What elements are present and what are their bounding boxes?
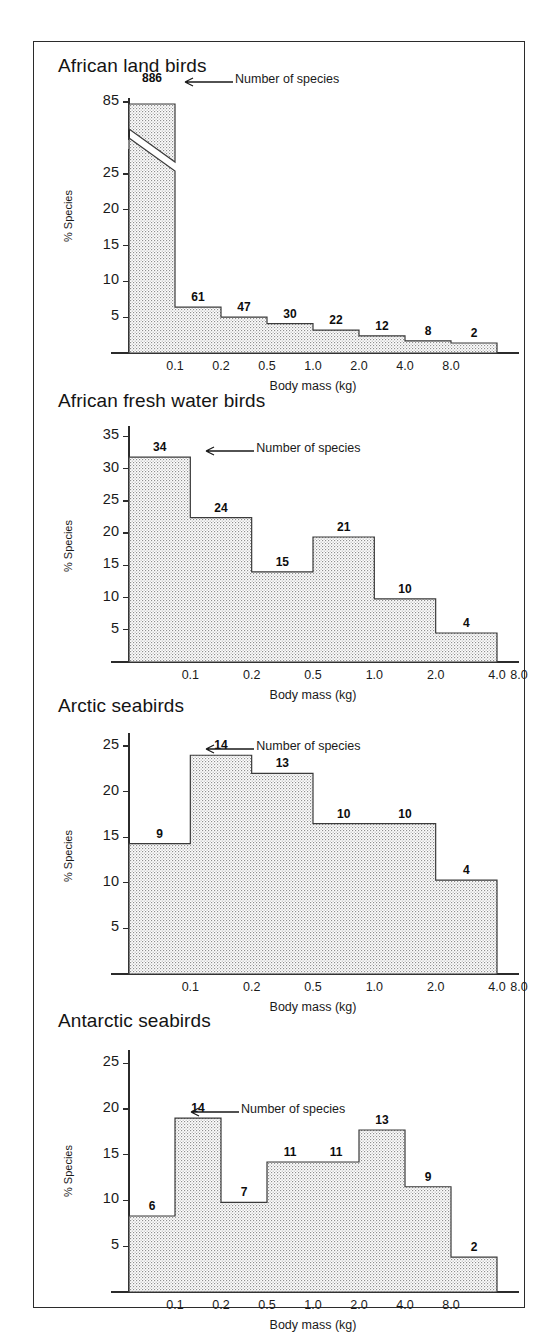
y-tick-label: 20 (77, 782, 119, 798)
x-tick-label: 4.0 (383, 359, 427, 373)
number-of-species-annotation: Number of species (241, 1102, 345, 1116)
x-tick-label: 0.1 (153, 1298, 197, 1312)
bar-value-label: 8 (402, 324, 454, 338)
y-tick-label: 5 (77, 620, 119, 636)
y-tick-label: 20 (77, 200, 119, 216)
x-tick-label: 1.0 (291, 359, 335, 373)
bar-value-label: 886 (126, 71, 178, 85)
bar-value-label: 22 (310, 313, 362, 327)
bar-value-label: 10 (318, 807, 370, 821)
y-tick-label: 25 (77, 491, 119, 507)
y-axis-label-3: % Species (62, 1145, 74, 1197)
y-axis-label-0: % Species (62, 190, 74, 242)
y-tick-label: 5 (77, 307, 119, 323)
bar-value-label: 11 (264, 1145, 316, 1159)
x-tick-label: 0.5 (245, 1298, 289, 1312)
y-tick-label: 20 (77, 1099, 119, 1115)
bar-value-label: 4 (440, 863, 492, 877)
bar-value-label: 11 (310, 1145, 362, 1159)
y-tick-label: 10 (77, 873, 119, 889)
bar-value-label: 9 (134, 827, 186, 841)
x-tick-label: 0.1 (153, 359, 197, 373)
bar-value-label: 13 (356, 1113, 408, 1127)
number-of-species-annotation: Number of species (235, 72, 339, 86)
bar-value-label: 13 (256, 756, 308, 770)
bar-value-label: 9 (402, 1170, 454, 1184)
y-tick-label: 15 (77, 1145, 119, 1161)
bar-value-label: 12 (356, 319, 408, 333)
annotation-arrow-icon (189, 1105, 249, 1121)
bar-value-label: 2 (448, 1240, 500, 1254)
y-tick-label: 15 (77, 236, 119, 252)
y-tick-label: 15 (77, 555, 119, 571)
y-tick-label: 10 (77, 588, 119, 604)
bar-value-label: 4 (440, 616, 492, 630)
x-tick-label: 2.0 (337, 359, 381, 373)
figure-frame: African land birds % Species 51015202585… (33, 41, 525, 1308)
y-tick-label: 25 (77, 1053, 119, 1069)
x-tick-label: 4.0 (383, 1298, 427, 1312)
annotation-arrow-icon (183, 75, 243, 91)
y-tick-label: 30 (77, 459, 119, 475)
bar-value-label: 21 (318, 520, 370, 534)
x-tick-label: 0.2 (199, 1298, 243, 1312)
chart-panel-african-fresh-water-birds: African fresh water birds % Species 5101… (34, 372, 526, 677)
bar-value-label: 6 (126, 1199, 178, 1213)
number-of-species-annotation: Number of species (256, 739, 360, 753)
y-tick-label: 25 (77, 164, 119, 180)
x-tick-label: 2.0 (337, 1298, 381, 1312)
y-tick-label: 15 (77, 827, 119, 843)
annotation-arrow-icon (204, 444, 264, 460)
x-tick-label: 1.0 (291, 1298, 335, 1312)
y-tick-label: 35 (77, 426, 119, 442)
y-tick-label: 10 (77, 271, 119, 287)
bar-value-label: 10 (379, 807, 431, 821)
y-tick-label: 85 (77, 92, 119, 108)
y-tick-label: 5 (77, 918, 119, 934)
x-tick-label: 8.0 (429, 1298, 473, 1312)
y-tick-label: 25 (77, 736, 119, 752)
bar-value-label: 15 (256, 555, 308, 569)
x-tick-label: 0.5 (245, 359, 289, 373)
chart-panel-antarctic-seabirds: Antarctic seabirds % Species 5101520250.… (34, 992, 526, 1309)
x-tick-label: 0.2 (199, 359, 243, 373)
y-axis-label-2: % Species (62, 830, 74, 882)
number-of-species-annotation: Number of species (256, 441, 360, 455)
chart-panel-african-land-birds: African land birds % Species 51015202585… (34, 42, 526, 372)
panel-title-2: Arctic seabirds (58, 695, 184, 717)
bar-value-label: 2 (448, 326, 500, 340)
panel-title-1: African fresh water birds (58, 390, 265, 412)
bar-value-label: 10 (379, 582, 431, 596)
y-tick-label: 5 (77, 1236, 119, 1252)
bar-value-label: 30 (264, 307, 316, 321)
y-axis-label-1: % Species (62, 520, 74, 572)
bar-value-label: 7 (218, 1185, 270, 1199)
panel-title-3: Antarctic seabirds (58, 1010, 211, 1032)
x-axis-label: Body mass (kg) (109, 1318, 517, 1332)
x-tick-label: 8.0 (429, 359, 473, 373)
bar-value-label: 47 (218, 300, 270, 314)
bar-value-label: 61 (172, 290, 224, 304)
annotation-arrow-icon (204, 742, 264, 758)
bar-value-label: 34 (134, 440, 186, 454)
bar-value-label: 24 (195, 501, 247, 515)
y-tick-label: 10 (77, 1190, 119, 1206)
chart-panel-arctic-seabirds: Arctic seabirds % Species 5101520250.10.… (34, 677, 526, 992)
y-tick-label: 20 (77, 523, 119, 539)
